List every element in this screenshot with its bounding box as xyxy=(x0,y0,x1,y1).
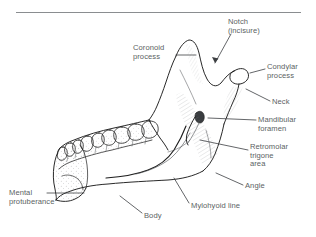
neck-leader xyxy=(246,89,270,101)
body-leader xyxy=(120,196,142,213)
label-body-line-1: Body xyxy=(144,212,162,221)
label-notch-line-2: (incisure) xyxy=(228,27,260,36)
label-condylar-line-2: process xyxy=(267,72,298,81)
angle-leader xyxy=(216,173,243,185)
label-retromolar: Retromolartrigonearea xyxy=(250,143,288,169)
mylohyoid-leader xyxy=(174,178,189,203)
condylar-leader xyxy=(250,69,265,73)
label-mylohyoid-line-1: Mylohyoid line xyxy=(191,202,240,211)
figure-canvas: CoronoidprocessNotch(incisure)Condylarpr… xyxy=(0,0,316,237)
retromolar-leader xyxy=(200,140,248,150)
label-foramen-line-2: foramen xyxy=(258,125,296,134)
label-notch: Notch(incisure) xyxy=(228,18,260,35)
label-neck-line-1: Neck xyxy=(272,98,290,107)
label-retromolar-line-3: area xyxy=(250,160,288,169)
label-mental-line-2: protuberance xyxy=(9,198,54,207)
foramen-leader xyxy=(208,118,256,120)
label-coronoid-line-2: process xyxy=(133,53,164,62)
label-angle-line-1: Angle xyxy=(245,182,265,191)
label-neck: Neck xyxy=(272,98,290,107)
label-condylar: Condylarprocess xyxy=(267,63,298,80)
label-body: Body xyxy=(144,212,162,221)
label-mylohyoid: Mylohyoid line xyxy=(191,202,240,211)
label-coronoid: Coronoidprocess xyxy=(133,44,164,61)
label-foramen: Mandibularforamen xyxy=(258,116,296,133)
label-angle: Angle xyxy=(245,182,265,191)
label-mental: Mentalprotuberance xyxy=(9,189,54,206)
